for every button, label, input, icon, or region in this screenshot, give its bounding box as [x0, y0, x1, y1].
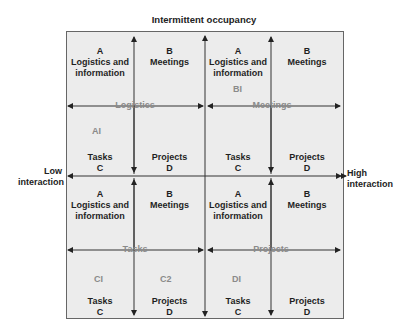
- tl-arrow-label: Logistics: [105, 100, 165, 111]
- cell-letter: D: [135, 163, 204, 174]
- bl-cell-d: Projects D: [135, 296, 204, 318]
- cell-label: Tasks: [67, 152, 133, 163]
- arrow-lines: [0, 0, 408, 330]
- tr-cell-b: B Meetings: [272, 46, 342, 68]
- cell-label: Projects: [135, 296, 204, 307]
- bl-cell-a: A Logistics and information: [67, 189, 133, 222]
- cell-letter: A: [206, 189, 270, 200]
- cell-letter: B: [272, 189, 342, 200]
- tl-cell-d: Projects D: [135, 152, 204, 174]
- cell-letter: D: [135, 307, 204, 318]
- bl-arrow-label: Tasks: [105, 244, 165, 255]
- cell-label: information: [67, 68, 133, 79]
- cell-label: Projects: [272, 152, 342, 163]
- cell-label: information: [67, 211, 133, 222]
- cell-label: information: [206, 68, 270, 79]
- tr-cell-a: A Logistics and information: [206, 46, 270, 79]
- cell-letter: D: [272, 307, 342, 318]
- cell-letter: C: [67, 163, 133, 174]
- br-cell-d: Projects D: [272, 296, 342, 318]
- cell-label: Meetings: [272, 57, 342, 68]
- bl-cell-b: B Meetings: [135, 189, 204, 211]
- cell-label: Logistics and: [67, 200, 133, 211]
- cell-letter: B: [135, 189, 204, 200]
- br-marker: DI: [232, 274, 241, 284]
- cell-label: Logistics and: [206, 57, 270, 68]
- cell-label: Tasks: [206, 152, 270, 163]
- br-cell-b: B Meetings: [272, 189, 342, 211]
- tr-cell-c: Tasks C: [206, 152, 270, 174]
- cell-label: Meetings: [272, 200, 342, 211]
- tl-cell-c: Tasks C: [67, 152, 133, 174]
- tr-marker: BI: [233, 84, 242, 94]
- cell-label: Meetings: [135, 57, 204, 68]
- cell-label: Tasks: [67, 296, 133, 307]
- tr-arrow-label: Meetings: [242, 100, 302, 111]
- br-cell-c: Tasks C: [206, 296, 270, 318]
- cell-label: Projects: [135, 152, 204, 163]
- cell-letter: D: [272, 163, 342, 174]
- cell-letter: B: [135, 46, 204, 57]
- bl-marker-2: C2: [160, 274, 172, 284]
- bl-marker: CI: [94, 274, 103, 284]
- cell-label: Meetings: [135, 200, 204, 211]
- cell-letter: A: [206, 46, 270, 57]
- tl-cell-b: B Meetings: [135, 46, 204, 68]
- tl-marker: AI: [92, 126, 101, 136]
- cell-label: Tasks: [206, 296, 270, 307]
- tl-cell-a: A Logistics and information: [67, 46, 133, 79]
- cell-letter: B: [272, 46, 342, 57]
- cell-label: Logistics and: [206, 200, 270, 211]
- br-cell-a: A Logistics and information: [206, 189, 270, 222]
- cell-letter: A: [67, 189, 133, 200]
- cell-letter: C: [67, 307, 133, 318]
- cell-label: information: [206, 211, 270, 222]
- br-arrow-label: Projects: [241, 244, 301, 255]
- cell-label: Projects: [272, 296, 342, 307]
- bl-cell-c: Tasks C: [67, 296, 133, 318]
- cell-letter: C: [206, 163, 270, 174]
- cell-label: Logistics and: [67, 57, 133, 68]
- tr-cell-d: Projects D: [272, 152, 342, 174]
- cell-letter: C: [206, 307, 270, 318]
- cell-letter: A: [67, 46, 133, 57]
